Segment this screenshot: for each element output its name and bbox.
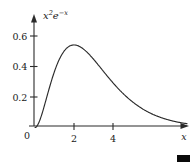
function-annotation-label: x2e−x [43, 11, 68, 21]
y-tick-label-0_4: 0.4 [12, 61, 27, 72]
y-axis-arrow-icon [31, 14, 37, 23]
y-tick-label-0_2: 0.2 [12, 92, 27, 103]
x-tick-label-4: 4 [110, 133, 116, 144]
x-tick-label-2: 2 [71, 133, 77, 144]
fn-exponent-minus-x: −x [59, 9, 68, 17]
x-axis-label: x [181, 131, 187, 142]
function-curve [35, 45, 187, 128]
origin-label-0: 0 [24, 130, 30, 141]
end-of-proof-marker [177, 155, 190, 162]
function-plot-figure: 0.6 0.4 0.2 0 2 4 x x2e−x [0, 0, 196, 166]
y-tick-label-0_6: 0.6 [12, 31, 27, 42]
plot-canvas: 0.6 0.4 0.2 0 2 4 x [0, 0, 196, 166]
